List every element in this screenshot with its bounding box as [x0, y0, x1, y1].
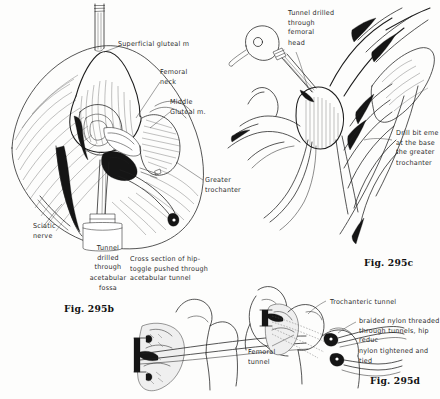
- femoral-head-stipple: [306, 97, 338, 148]
- leader-drill-bit-emerging: [364, 139, 392, 141]
- leader-femoral-head-tunnel: [296, 52, 308, 88]
- label-femoral-neck: Femoral neck: [160, 68, 187, 88]
- pelvis-fragment-panel-c: [228, 88, 300, 169]
- label-drill-bit-emerging: Drill bit eme at the base the greater tr…: [396, 129, 440, 168]
- leader-femoral-neck: [136, 82, 160, 118]
- gluteal-muscles-panel-c: [330, 8, 434, 244]
- label-middle-gluteal-muscle: Middle Gluteal m.: [170, 98, 206, 118]
- caption-fig-295c: Fig. 295c: [364, 257, 413, 268]
- figure-plate: Superficial gluteal m Femoral neck Middl…: [0, 0, 440, 399]
- label-cross-section-note: Cross section of hip- toggle pushed thro…: [130, 255, 208, 284]
- caption-fig-295b: Fig. 295b: [64, 303, 114, 314]
- label-sciatic-nerve: Sciatic nerve: [33, 222, 56, 242]
- label-greater-trochanter: Greater trochanter: [205, 176, 241, 196]
- leader-greater-trochanter: [176, 162, 203, 180]
- label-femoral-head-tunnel: Tunnel drilled through femoral head: [288, 9, 334, 48]
- label-acetabular-tunnel: Tunnel drilled through acetabular fossa: [85, 244, 131, 293]
- label-femoral-tunnel: Femoral tunnel: [248, 348, 275, 368]
- leader-trochanteric-tunnel: [308, 301, 326, 314]
- drill-shaft-upper: [95, 4, 105, 51]
- femoral-head-neck: [296, 87, 344, 149]
- nylon-knots: [324, 333, 344, 366]
- label-trochanteric-tunnel: Trochanteric tunnel: [330, 298, 396, 308]
- label-nylon-note: braided nylon threaded through tunnels, …: [359, 317, 440, 366]
- femur-panel-d: [288, 305, 360, 388]
- drill-body: [229, 26, 286, 66]
- label-superficial-gluteal-muscle: Superficial gluteal m: [118, 40, 189, 50]
- caption-fig-295d: Fig. 295d: [370, 375, 420, 386]
